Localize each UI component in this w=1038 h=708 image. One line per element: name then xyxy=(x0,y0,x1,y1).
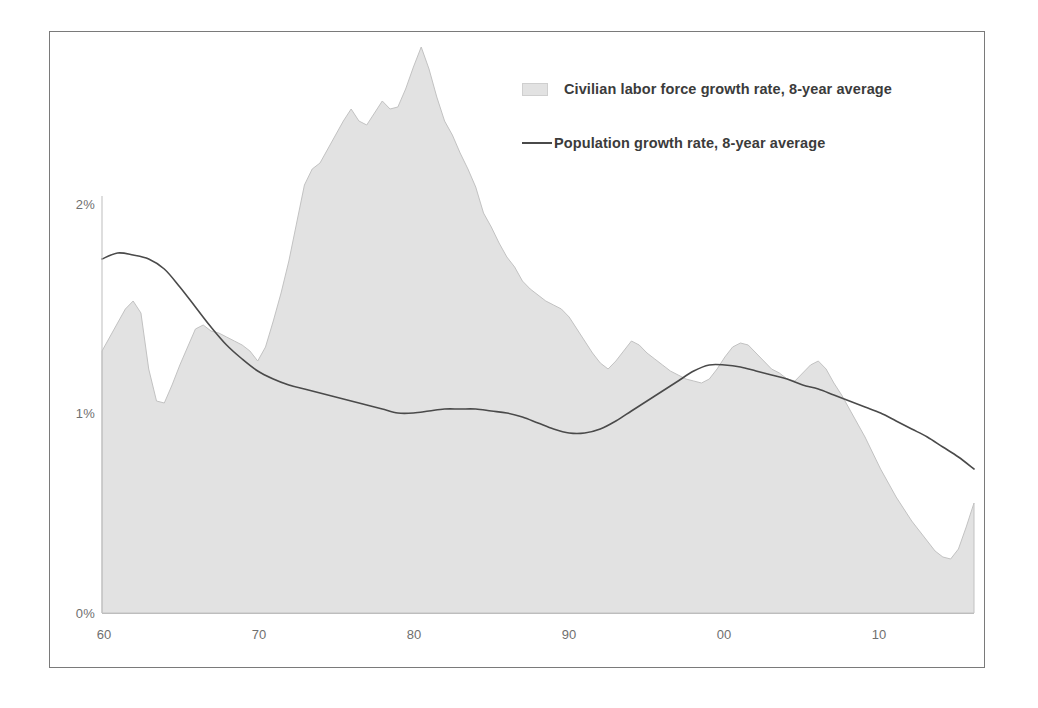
area-swatch-icon xyxy=(522,83,548,96)
line-swatch-icon xyxy=(522,142,552,144)
legend-label-population: Population growth rate, 8-year average xyxy=(554,135,825,151)
chart-page: 2% 1% 0% 60 70 80 90 00 10 Civilian labo… xyxy=(0,0,1038,708)
legend-item-civilian-labor-force: Civilian labor force growth rate, 8-year… xyxy=(522,78,962,100)
chart-legend: Civilian labor force growth rate, 8-year… xyxy=(522,78,962,186)
legend-label-civilian-labor-force: Civilian labor force growth rate, 8-year… xyxy=(564,81,892,97)
legend-item-population: Population growth rate, 8-year average xyxy=(522,132,962,154)
